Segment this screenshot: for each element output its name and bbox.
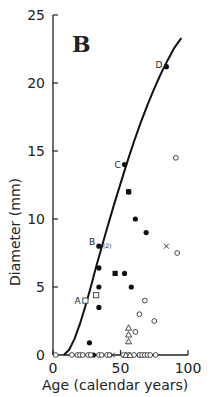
annotations: AB(2)CD [74, 60, 162, 306]
point-open-triangle [126, 338, 132, 343]
point-filled-square [126, 189, 131, 194]
point-filled-square [113, 271, 118, 276]
data-points [53, 64, 179, 358]
y-tick-label: 25 [27, 7, 45, 23]
point-open-circle [148, 353, 153, 358]
point-open-circle [152, 319, 157, 324]
y-tick-label: 10 [27, 211, 45, 227]
point-label-point_c: C [115, 160, 121, 170]
point-filled-circle [96, 244, 101, 249]
point-open-circle [175, 251, 180, 256]
point-label-point_b_note: (2) [103, 242, 112, 249]
point-open-circle [70, 353, 75, 358]
point-open-circle [88, 353, 93, 358]
x-tick-label: 100 [175, 360, 202, 376]
point-open-circle [99, 353, 104, 358]
y-tick-label: 15 [27, 143, 45, 159]
point-filled-circle [96, 265, 101, 270]
point-open-square [94, 293, 99, 298]
x-tick-label: 0 [49, 360, 58, 376]
y-axis-label: Diameter (mm) [7, 178, 23, 286]
x-tick-label: 50 [112, 360, 130, 376]
point-open-square [83, 298, 88, 303]
point-open-circle [53, 353, 58, 358]
point-open-triangle [126, 325, 132, 330]
point-filled-circle [164, 64, 169, 69]
point-label-point_b: B [89, 237, 95, 247]
point-filled-circle [129, 284, 134, 289]
point-filled-circle [96, 305, 101, 310]
panel-label: B [72, 31, 91, 57]
point-open-circle [173, 155, 178, 160]
axes: 0510152025050100 [27, 7, 201, 376]
point-open-circle [142, 298, 147, 303]
point-label-point_a: A [74, 296, 81, 306]
point-filled-circle [144, 230, 149, 235]
point-filled-circle [133, 216, 138, 221]
point-filled-circle [87, 340, 92, 345]
point-open-circle [137, 312, 142, 317]
curve-line [64, 38, 182, 355]
point-label-point_d: D [155, 60, 162, 70]
point-open-circle [133, 329, 138, 334]
y-tick-label: 5 [36, 279, 45, 295]
scatter-plot: 0510152025050100 AB(2)CD B Age (calendar… [0, 0, 210, 397]
y-tick-label: 0 [36, 347, 45, 363]
x-axis-label: Age (calendar years) [42, 377, 188, 393]
point-open-triangle [126, 332, 132, 337]
point-open-circle [153, 353, 158, 358]
point-cross [164, 244, 169, 249]
point-open-circle [80, 353, 85, 358]
chart: 0510152025050100 AB(2)CD B Age (calendar… [0, 0, 210, 397]
growth-curve [64, 38, 182, 355]
point-filled-circle [96, 284, 101, 289]
point-filled-circle [122, 271, 127, 276]
point-filled-circle [122, 162, 127, 167]
y-tick-label: 20 [27, 75, 45, 91]
